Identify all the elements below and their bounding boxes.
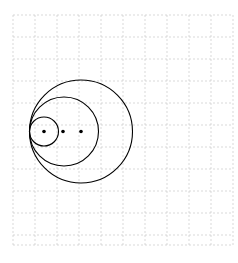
figure-root (0, 0, 238, 263)
large-circle-center (79, 130, 83, 134)
circles-diagram (0, 0, 238, 263)
figure-background (0, 0, 238, 263)
small-circle-center (42, 130, 46, 134)
middle-circle-center (61, 130, 65, 134)
